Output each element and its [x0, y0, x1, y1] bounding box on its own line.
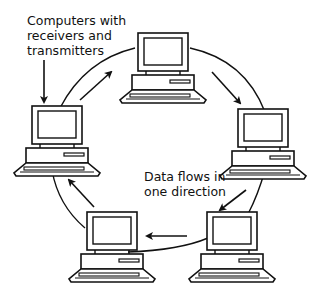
label-computers-line1: Computers with	[27, 13, 126, 28]
label-computers-line3: transmitters	[27, 43, 104, 58]
computer-bottom-right	[189, 212, 275, 282]
label-flow-line1: Data flows in	[144, 169, 225, 184]
computer-left	[14, 106, 100, 176]
arrow-bottom-left-to-left	[69, 180, 94, 207]
computer-bottom-left	[69, 212, 155, 282]
computer-top	[120, 33, 206, 103]
label-flow-line2: one direction	[144, 184, 226, 199]
arrow-top-to-right	[212, 72, 240, 103]
computer-right	[220, 109, 306, 179]
label-computers-line2: receivers and	[27, 28, 112, 43]
arrow-left-to-top	[80, 72, 111, 100]
ring-network-diagram: Computers with receivers and transmitter…	[0, 0, 318, 289]
